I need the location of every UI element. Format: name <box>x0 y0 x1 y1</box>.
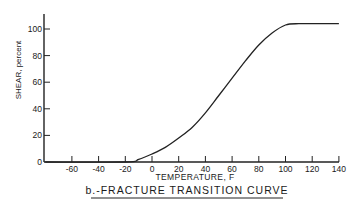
fracture-transition-chart: 020406080100 -60-40-20020406080100120140… <box>0 0 360 206</box>
chart-title: b.-FRACTURE TRANSITION CURVE <box>85 184 288 196</box>
y-tick-label: 80 <box>33 51 43 61</box>
x-tick-label: -40 <box>92 164 105 174</box>
y-axis: 020406080100 <box>28 14 50 167</box>
x-tick-label: -60 <box>66 164 79 174</box>
shear-curve-line <box>45 24 339 163</box>
x-tick-label: 80 <box>254 164 264 174</box>
y-tick-label: 0 <box>37 157 42 167</box>
x-tick-label: 0 <box>150 164 155 174</box>
x-tick-label: 120 <box>305 164 319 174</box>
x-tick-label: 100 <box>278 164 292 174</box>
y-axis-label: SHEAR, percent <box>14 40 23 99</box>
y-tick-label: 100 <box>28 24 42 34</box>
x-axis-label: TEMPERATURE, F <box>155 172 234 182</box>
x-tick-label: 140 <box>332 164 346 174</box>
x-tick-label: -20 <box>119 164 132 174</box>
y-tick-label: 60 <box>33 77 43 87</box>
y-tick-label: 20 <box>33 130 43 140</box>
y-tick-label: 40 <box>33 104 43 114</box>
